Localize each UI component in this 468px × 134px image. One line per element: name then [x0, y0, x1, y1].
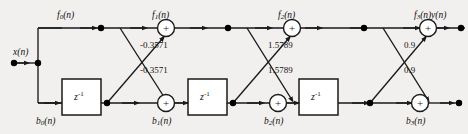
output-terminal-dot [458, 25, 464, 31]
b2-label: b2(n) [264, 117, 283, 127]
delay-box-1-label: z-1 [74, 91, 84, 102]
coefficient-stage2-upper: 1.5789 [268, 41, 293, 50]
svg-text:+: + [425, 22, 431, 34]
output-signal-label: y(n) [431, 11, 446, 21]
svg-text:+: + [417, 97, 423, 109]
output-signal-text: y(n) [431, 10, 446, 20]
b0-label: b0(n) [36, 117, 55, 127]
b2-tap-node [367, 100, 373, 106]
input-terminal-dot [11, 60, 17, 66]
f2-label: f2(n) [278, 11, 295, 21]
input-signal-text: x(n) [13, 47, 28, 57]
svg-text:+: + [289, 22, 295, 34]
f2-tap-node [361, 25, 367, 31]
coefficient-stage1-lower: -0.3571 [140, 66, 168, 75]
b3-label: b3(n) [406, 117, 425, 127]
b1-label: b1(n) [152, 117, 171, 127]
f0-label: f0(n) [57, 11, 74, 21]
delay-box-3-label: z-1 [311, 91, 321, 102]
b0-tap-node [104, 100, 110, 106]
coefficient-stage1-upper: -0.3571 [140, 41, 168, 50]
stage-3-cross [370, 28, 428, 103]
figure-canvas: + + + + + + x(n) y(n) [0, 0, 468, 134]
delay-box-2-label: z-1 [200, 91, 210, 102]
coefficient-stage2-lower: 1.5789 [268, 66, 293, 75]
svg-text:+: + [163, 97, 169, 109]
b1-tap-node [230, 100, 236, 106]
input-split-node [35, 60, 41, 66]
f1-tap-node [225, 25, 231, 31]
svg-text:+: + [163, 22, 169, 34]
coefficient-stage3-upper: 0.9 [404, 41, 415, 50]
input-signal-label: x(n) [13, 48, 28, 58]
f3-label: f3(n) [414, 11, 431, 21]
svg-text:+: + [275, 97, 281, 109]
coefficient-stage3-lower: 0.9 [404, 66, 415, 75]
b3-terminal-dot [456, 100, 462, 106]
f1-label: f1(n) [152, 11, 169, 21]
f0-tap-node [98, 25, 104, 31]
